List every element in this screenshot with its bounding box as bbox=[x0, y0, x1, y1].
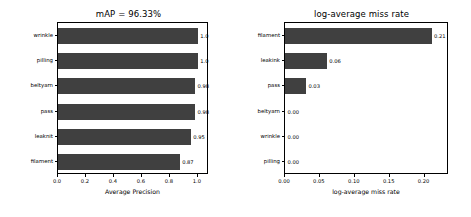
bar-value-label-leaknit: 0.95 bbox=[193, 134, 205, 140]
x-tick-4 bbox=[169, 174, 170, 177]
x-tick-4 bbox=[424, 174, 425, 177]
x-tick-label-0: 0.00 bbox=[278, 178, 290, 184]
y-tick-beltyarn bbox=[282, 111, 285, 112]
y-axis-label-pass: pass bbox=[9, 108, 53, 114]
y-tick-beltyarn bbox=[55, 85, 58, 86]
x-tick-label-1: 0.05 bbox=[313, 178, 325, 184]
bar-filament bbox=[285, 28, 432, 44]
x-tick-2 bbox=[113, 174, 114, 177]
bar-leakink bbox=[285, 53, 327, 69]
x-axis-title-right: log-average miss rate bbox=[332, 188, 400, 195]
bar-value-label-leakink: 0.06 bbox=[329, 58, 341, 64]
y-axis-label-beltyarn: beltyarn bbox=[9, 82, 53, 88]
bar-value-label-wrinkle: 0.00 bbox=[288, 134, 300, 140]
x-tick-1 bbox=[319, 174, 320, 177]
y-tick-pass bbox=[55, 111, 58, 112]
bar-beltyarn bbox=[58, 78, 195, 94]
y-axis-label-filament: filament bbox=[236, 32, 280, 38]
bar-pass bbox=[58, 104, 195, 120]
bar-value-label-pass: 0.03 bbox=[308, 83, 320, 89]
x-tick-5 bbox=[197, 174, 198, 177]
bar-wrinkle bbox=[58, 28, 198, 44]
bar-value-label-pilling: 1.0 bbox=[200, 58, 208, 64]
plot-axes-right: 0.210.060.030.000.000.00 bbox=[284, 22, 448, 174]
chart-title-right: log-average miss rate bbox=[236, 9, 471, 19]
y-axis-label-pilling: pilling bbox=[236, 158, 280, 164]
figure-canvas: mAP = 96.33% 1.01.00.980.980.950.87 wrin… bbox=[0, 0, 471, 217]
chart-panel-average-precision: mAP = 96.33% 1.01.00.980.980.950.87 wrin… bbox=[0, 0, 235, 217]
y-axis-label-beltyarn: beltyarn bbox=[236, 108, 280, 114]
bar-value-label-filament: 0.21 bbox=[434, 33, 446, 39]
y-axis-label-pass: pass bbox=[236, 82, 280, 88]
x-tick-label-5: 1.0 bbox=[193, 178, 201, 184]
y-axis-label-wrinkle: wrinkle bbox=[9, 32, 53, 38]
y-axis-label-wrinkle: wrinkle bbox=[236, 133, 280, 139]
y-tick-filament bbox=[282, 35, 285, 36]
bar-value-label-pass: 0.98 bbox=[198, 109, 210, 115]
y-axis-label-leaknit: leaknit bbox=[9, 133, 53, 139]
y-axis-label-filament: filament bbox=[9, 158, 53, 164]
x-tick-label-1: 0.2 bbox=[81, 178, 89, 184]
y-tick-pilling bbox=[55, 60, 58, 61]
x-tick-2 bbox=[354, 174, 355, 177]
chart-title-left: mAP = 96.33% bbox=[0, 9, 235, 19]
y-tick-pilling bbox=[282, 161, 285, 162]
bar-pass bbox=[285, 78, 306, 94]
x-tick-0 bbox=[57, 174, 58, 177]
bar-filament bbox=[58, 154, 180, 170]
y-tick-leakink bbox=[282, 60, 285, 61]
bar-value-label-filament: 0.87 bbox=[182, 159, 194, 165]
plot-axes-left: 1.01.00.980.980.950.87 bbox=[57, 22, 208, 174]
x-tick-label-3: 0.6 bbox=[137, 178, 145, 184]
x-tick-label-0: 0.0 bbox=[53, 178, 61, 184]
y-tick-wrinkle bbox=[282, 136, 285, 137]
y-tick-leaknit bbox=[55, 136, 58, 137]
chart-panel-miss-rate: log-average miss rate 0.210.060.030.000.… bbox=[236, 0, 471, 217]
x-tick-1 bbox=[85, 174, 86, 177]
x-tick-0 bbox=[284, 174, 285, 177]
bar-leaknit bbox=[58, 129, 191, 145]
x-tick-label-3: 0.15 bbox=[383, 178, 395, 184]
x-tick-label-4: 0.8 bbox=[165, 178, 173, 184]
y-tick-wrinkle bbox=[55, 35, 58, 36]
x-tick-label-2: 0.4 bbox=[109, 178, 117, 184]
y-tick-filament bbox=[55, 161, 58, 162]
x-axis-title-left: Average Precision bbox=[105, 188, 160, 195]
bar-pilling bbox=[58, 53, 198, 69]
bar-value-label-wrinkle: 1.0 bbox=[200, 33, 208, 39]
y-axis-label-pilling: pilling bbox=[9, 57, 53, 63]
bar-value-label-pilling: 0.00 bbox=[288, 159, 300, 165]
x-tick-label-4: 0.20 bbox=[418, 178, 430, 184]
bar-value-label-beltyarn: 0.00 bbox=[288, 109, 300, 115]
plot-area-right: 0.210.060.030.000.000.00 bbox=[285, 23, 447, 173]
x-tick-3 bbox=[389, 174, 390, 177]
x-tick-label-2: 0.10 bbox=[348, 178, 360, 184]
x-tick-3 bbox=[141, 174, 142, 177]
bar-value-label-beltyarn: 0.98 bbox=[198, 83, 210, 89]
y-axis-label-leakink: leakink bbox=[236, 57, 280, 63]
plot-area-left: 1.01.00.980.980.950.87 bbox=[58, 23, 207, 173]
y-tick-pass bbox=[282, 85, 285, 86]
